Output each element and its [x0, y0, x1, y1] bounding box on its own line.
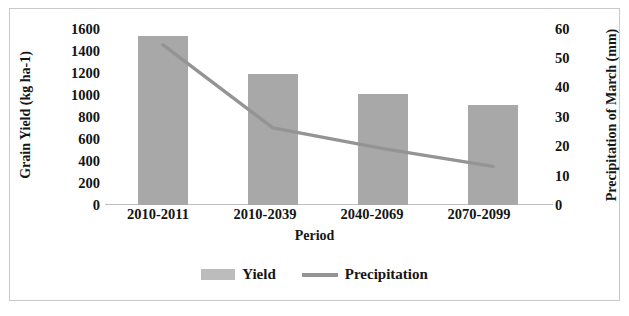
y-right-tick-40: 40 [555, 80, 589, 95]
y-right-tick-50: 50 [555, 51, 589, 66]
y-right-tick-30: 30 [555, 110, 589, 125]
bar-yield-2070-2099 [468, 105, 518, 205]
chart-legend: Yield Precipitation [0, 266, 629, 283]
y-right-tick-0: 0 [555, 198, 589, 213]
legend-label-yield: Yield [242, 266, 276, 283]
legend-label-precipitation: Precipitation [345, 266, 428, 283]
y-axis-left-title: Grain Yield (kg ha-1) [18, 35, 34, 195]
plot-area [108, 27, 548, 205]
y-right-tick-60: 60 [555, 22, 589, 37]
legend-bar-swatch-icon [201, 269, 235, 280]
bar-yield-2010-2011 [138, 36, 188, 205]
legend-line-swatch-icon [302, 273, 338, 277]
legend-item-yield: Yield [201, 266, 276, 283]
y-left-tick-0: 0 [44, 198, 100, 213]
y-left-tick-1000: 1000 [44, 88, 100, 103]
y-left-tick-800: 800 [44, 110, 100, 125]
y-left-tick-1200: 1200 [44, 66, 100, 81]
x-tick-label-2070-2099: 2070-2099 [419, 206, 539, 223]
chart-figure: Grain Yield (kg ha-1) Precipitation of M… [0, 0, 629, 316]
x-axis-title: Period [0, 228, 629, 244]
legend-item-precipitation: Precipitation [302, 266, 428, 283]
y-left-tick-400: 400 [44, 154, 100, 169]
y-right-tick-10: 10 [555, 169, 589, 184]
y-right-tick-20: 20 [555, 139, 589, 154]
y-axis-right-title: Precipitation of March (mm) [604, 24, 620, 206]
y-left-tick-1400: 1400 [44, 44, 100, 59]
x-tick-label-2010-2039: 2010-2039 [205, 206, 325, 223]
bar-yield-2040-2069 [358, 94, 408, 205]
y-left-tick-200: 200 [44, 176, 100, 191]
y-left-tick-1600: 1600 [44, 22, 100, 37]
x-tick-label-2010-2011: 2010-2011 [98, 206, 218, 223]
y-left-tick-600: 600 [44, 132, 100, 147]
bar-yield-2010-2039 [248, 74, 298, 205]
x-tick-label-2040-2069: 2040-2069 [312, 206, 432, 223]
